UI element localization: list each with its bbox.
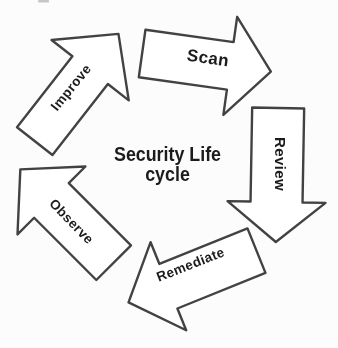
arrow-review: Review: [227, 107, 327, 243]
arrow-scan: Scan: [135, 4, 278, 120]
diagram-title-line2: cycle: [145, 162, 190, 186]
diagram-svg: Scan Review Remediate Observe Improve: [0, 0, 338, 348]
remediate-arrow-shape: [111, 207, 275, 347]
arrow-remediate: Remediate: [111, 207, 275, 347]
diagram-content: Scan Review Remediate Observe Improve: [0, 4, 327, 347]
page-scan-artifact: [38, 0, 49, 2]
diagram-title: Security Life cycle: [114, 141, 221, 185]
review-label: Review: [272, 137, 289, 191]
security-lifecycle-diagram: Scan Review Remediate Observe Improve: [0, 0, 338, 348]
